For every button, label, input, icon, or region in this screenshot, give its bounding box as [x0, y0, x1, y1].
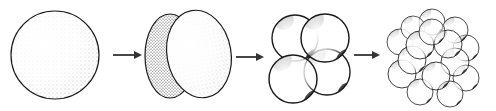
four-cell-stage	[269, 14, 350, 103]
two-cell-stage	[145, 5, 238, 103]
cell-cleavage-diagram	[0, 0, 496, 111]
morula-stage	[387, 9, 479, 107]
zygote-cell	[11, 11, 99, 99]
